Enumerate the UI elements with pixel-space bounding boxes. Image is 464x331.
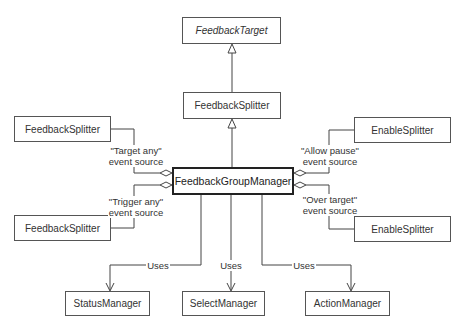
label-allow-pause: "Allow pause" event source (300, 145, 360, 167)
label-trigger-any-line1: "Trigger any" (108, 196, 164, 207)
class-status-manager: StatusManager (65, 291, 150, 316)
label-over-target-line1: "Over target" (300, 194, 360, 205)
label-uses-status: Uses (146, 260, 170, 271)
label-over-target: "Over target" event source (300, 194, 360, 216)
connector-lines (0, 0, 464, 331)
class-feedback-group-manager: FeedbackGroupManager (172, 167, 294, 195)
label-allow-pause-line2: event source (300, 156, 360, 167)
label-uses-select: Uses (219, 260, 243, 271)
label-uses-action: Uses (292, 260, 316, 271)
class-feedback-target: FeedbackTarget (182, 17, 281, 44)
label-trigger-any: "Trigger any" event source (108, 196, 164, 218)
class-action-manager: ActionManager (305, 291, 390, 316)
label-allow-pause-line1: "Allow pause" (300, 145, 360, 156)
label-trigger-any-line2: event source (108, 207, 164, 218)
class-feedback-splitter-left-top: FeedbackSplitter (14, 116, 111, 142)
class-select-manager: SelectManager (182, 291, 265, 316)
class-enable-splitter-right-top: EnableSplitter (354, 117, 451, 143)
class-enable-splitter-right-bottom: EnableSplitter (354, 216, 451, 242)
class-feedback-splitter-center: FeedbackSplitter (183, 92, 281, 119)
label-over-target-line2: event source (300, 205, 360, 216)
class-feedback-splitter-left-bottom: FeedbackSplitter (14, 215, 111, 241)
label-target-any-line2: event source (108, 156, 164, 167)
label-target-any: "Target any" event source (108, 145, 164, 167)
label-target-any-line1: "Target any" (108, 145, 164, 156)
uml-diagram: FeedbackTarget FeedbackSplitter Feedback… (0, 0, 464, 331)
